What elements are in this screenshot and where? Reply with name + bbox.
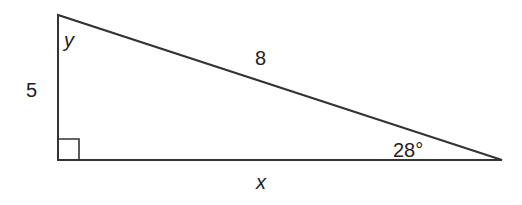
vertical-leg-label: 5 xyxy=(26,79,37,101)
angle-y-label: y xyxy=(62,29,75,51)
horizontal-leg-label: x xyxy=(255,171,267,193)
hypotenuse-label: 8 xyxy=(255,47,266,69)
angle-28-label: 28° xyxy=(393,139,423,161)
triangle-outline xyxy=(58,15,502,160)
triangle-diagram: y 5 8 28° x xyxy=(0,0,522,205)
triangle-svg: y 5 8 28° x xyxy=(0,0,522,205)
right-angle-marker xyxy=(58,139,79,160)
